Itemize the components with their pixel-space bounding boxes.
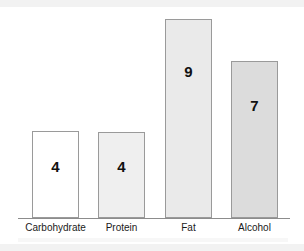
- plot-area: 4 4 9 7 Carbohydrate Protein Fat Alcohol: [0, 0, 304, 251]
- bar-carbohydrate: 4: [32, 131, 79, 218]
- bar-chart-figure: 4 4 9 7 Carbohydrate Protein Fat Alcohol: [0, 0, 304, 251]
- bar-fat: 9: [165, 19, 212, 218]
- x-axis-line: [18, 218, 290, 219]
- x-tick-label-protein: Protein: [90, 222, 153, 233]
- x-tick-label-alcohol: Alcohol: [223, 222, 286, 233]
- x-tick-label-fat: Fat: [157, 222, 220, 233]
- bar-alcohol: 7: [231, 61, 278, 218]
- x-tick-label-carbohydrate: Carbohydrate: [14, 222, 97, 233]
- bar-value-protein: 4: [99, 158, 144, 175]
- bar-value-fat: 9: [166, 63, 211, 80]
- bar-value-carbohydrate: 4: [33, 158, 78, 175]
- bar-value-alcohol: 7: [232, 97, 277, 114]
- bar-protein: 4: [98, 132, 145, 218]
